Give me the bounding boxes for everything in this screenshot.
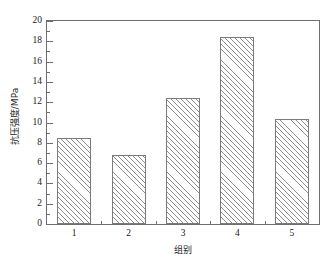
x-tick-label: 5 <box>272 228 312 239</box>
bar <box>57 138 91 224</box>
x-tick-label: 3 <box>163 228 203 239</box>
bar-chart-figure: 抗压强度/MPa 02468101214161820 12345 组别 <box>0 0 336 269</box>
plot-inner: 02468101214161820 12345 <box>47 21 319 224</box>
y-minor-tick-mark <box>47 31 50 32</box>
bar <box>112 155 146 224</box>
y-tick-mark <box>47 123 53 124</box>
y-minor-tick-mark <box>47 194 50 195</box>
bar <box>275 119 309 224</box>
y-tick-label: 0 <box>37 218 42 229</box>
x-tick-label: 1 <box>54 228 94 239</box>
y-tick-mark <box>47 224 53 225</box>
y-minor-tick-mark <box>47 92 50 93</box>
x-minor-tick-mark <box>265 221 266 224</box>
y-tick-mark <box>47 204 53 205</box>
bar <box>166 98 200 224</box>
x-tick-label: 2 <box>109 228 149 239</box>
y-minor-tick-mark <box>47 112 50 113</box>
x-minor-tick-mark <box>210 221 211 224</box>
x-tick-label: 4 <box>217 228 257 239</box>
y-tick-label: 6 <box>37 157 42 168</box>
y-axis-title: 抗压强度/MPa <box>8 56 24 176</box>
y-tick-mark <box>47 183 53 184</box>
y-tick-mark <box>47 82 53 83</box>
y-tick-label: 2 <box>37 198 42 209</box>
y-tick-label: 4 <box>37 177 42 188</box>
y-minor-tick-mark <box>47 173 50 174</box>
plot-area: 02468101214161820 12345 <box>46 20 320 225</box>
y-minor-tick-mark <box>47 153 50 154</box>
y-minor-tick-mark <box>47 72 50 73</box>
y-tick-mark <box>47 143 53 144</box>
bar <box>220 37 254 224</box>
y-tick-mark <box>47 163 53 164</box>
y-tick-mark <box>47 21 53 22</box>
y-tick-label: 18 <box>33 35 43 46</box>
y-axis-title-text: 抗压强度/MPa <box>12 87 21 144</box>
x-minor-tick-mark <box>101 221 102 224</box>
y-tick-label: 12 <box>33 96 43 107</box>
y-tick-mark <box>47 62 53 63</box>
y-tick-label: 20 <box>33 15 43 26</box>
y-minor-tick-mark <box>47 133 50 134</box>
y-tick-mark <box>47 41 53 42</box>
y-minor-tick-mark <box>47 214 50 215</box>
y-tick-label: 14 <box>33 76 43 87</box>
y-tick-label: 16 <box>33 56 43 67</box>
y-tick-mark <box>47 102 53 103</box>
y-tick-label: 8 <box>37 137 42 148</box>
x-minor-tick-mark <box>156 221 157 224</box>
x-axis-title: 组别 <box>46 245 320 256</box>
y-minor-tick-mark <box>47 51 50 52</box>
y-tick-label: 10 <box>33 117 43 128</box>
